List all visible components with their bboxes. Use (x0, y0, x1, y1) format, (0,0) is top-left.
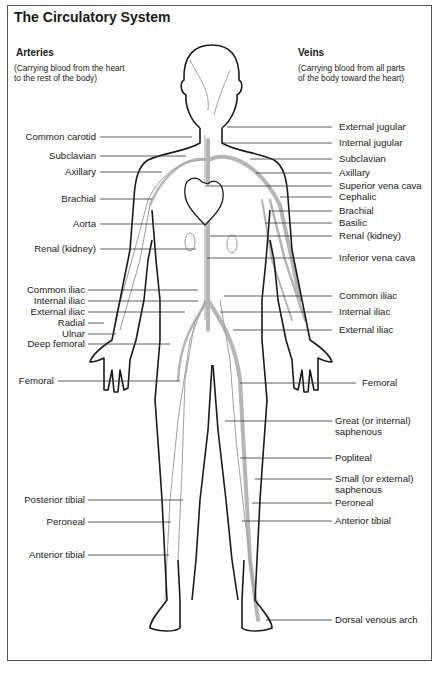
label-anterior-tibial-artery: Anterior tibial (29, 549, 85, 560)
label-posterior-tibial-artery: Posterior tibial (24, 494, 85, 505)
label-popliteal-vein: Popliteal (335, 452, 372, 463)
label-radial-artery: Radial (58, 317, 85, 328)
label-dorsal-venous-arch: Dorsal venous arch (335, 614, 418, 625)
label-peroneal-artery: Peroneal (47, 516, 85, 527)
label-anterior-tibial-vein: Anterior tibial (335, 515, 391, 526)
label-superior-vena-cava: Superior vena cava (339, 180, 422, 191)
label-deep-femoral-artery: Deep femoral (27, 338, 85, 349)
label-renal-vein: Renal (kidney) (339, 230, 401, 241)
label-basilic-vein: Basilic (339, 217, 367, 228)
label-peroneal-vein: Peroneal (335, 497, 373, 508)
label-great-saphenous-line2: saphenous (335, 426, 382, 437)
label-external-iliac-artery: External iliac (31, 306, 85, 317)
label-common-iliac-vein: Common iliac (339, 290, 397, 301)
label-subclavian-artery: Subclavian (49, 150, 96, 161)
label-great-saphenous-line1: Great (or internal) (335, 415, 411, 426)
label-renal-artery: Renal (kidney) (34, 243, 96, 254)
label-external-jugular: External jugular (339, 121, 406, 132)
label-femoral-vein: Femoral (362, 377, 397, 388)
label-internal-iliac-artery: Internal iliac (34, 295, 85, 306)
label-common-iliac-artery: Common iliac (27, 284, 85, 295)
label-small-saphenous-line2: saphenous (335, 484, 382, 495)
label-small-saphenous-line1: Small (or external) (335, 473, 413, 484)
label-axillary-artery: Axillary (65, 166, 96, 177)
label-internal-iliac-vein: Internal iliac (339, 306, 390, 317)
label-brachial-artery: Brachial (61, 193, 96, 204)
label-common-carotid: Common carotid (26, 131, 96, 142)
label-external-iliac-vein: External iliac (339, 324, 393, 335)
label-cephalic-vein: Cephalic (339, 191, 376, 202)
label-internal-jugular: Internal jugular (339, 137, 402, 148)
label-subclavian-vein: Subclavian (339, 153, 386, 164)
label-femoral-artery: Femoral (19, 375, 54, 386)
label-inferior-vena-cava: Inferior vena cava (339, 252, 415, 263)
label-aorta: Aorta (73, 218, 96, 229)
label-axillary-vein: Axillary (339, 167, 370, 178)
label-brachial-vein: Brachial (339, 205, 374, 216)
